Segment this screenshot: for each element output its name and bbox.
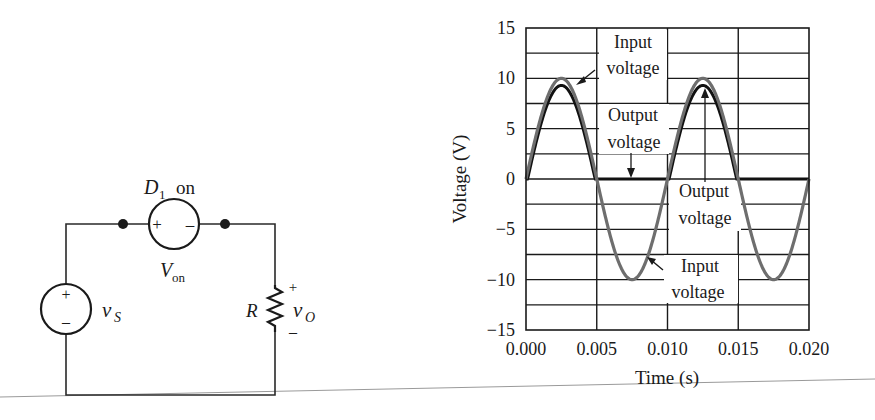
diode-plus-sign: +: [152, 215, 162, 234]
figure: + – D 1 on V on + – v S R + v O –: [0, 0, 875, 420]
x-tick-label: 0.020: [789, 339, 830, 359]
y-tick-label: −5: [496, 219, 515, 239]
source-label-subscript: S: [114, 310, 121, 325]
annotation-line1: Output: [679, 181, 729, 201]
x-tick-label: 0.015: [718, 339, 759, 359]
node-dot-right: [220, 219, 230, 229]
annotation-line2: voltage: [672, 282, 725, 302]
y-axis-label: Voltage (V): [449, 135, 471, 224]
diode-label: D 1 on: [143, 176, 196, 202]
annotation-line1: Input: [614, 32, 652, 52]
output-label: v O: [293, 298, 315, 325]
annotation-output-voltage-zero: Output voltage: [608, 105, 661, 178]
output-label-subscript: O: [305, 310, 315, 325]
output-plus-sign: +: [289, 279, 297, 295]
annotation-input-voltage-top: Input voltage: [576, 32, 659, 85]
y-tick-label: 0: [506, 169, 515, 189]
wire-bottom: [66, 332, 275, 395]
output-label-main: v: [293, 298, 303, 322]
x-axis-label: Time (s): [635, 367, 699, 389]
y-tick-label: 5: [506, 119, 515, 139]
source-plus-sign: +: [61, 286, 70, 303]
y-axis-ticks: 151050−5−10−15: [487, 18, 515, 340]
source-minus-sign: –: [61, 313, 71, 330]
y-tick-label: −15: [487, 320, 515, 340]
diode-state-label: on: [176, 177, 196, 198]
y-tick-label: −10: [487, 270, 515, 290]
arrow-head-icon: [627, 168, 635, 178]
annotation-line2: voltage: [607, 58, 660, 78]
x-axis-ticks: 0.0000.0050.0100.0150.020: [506, 339, 830, 359]
diode-minus-sign: –: [185, 215, 195, 234]
x-tick-label: 0.000: [506, 339, 547, 359]
arrow-head-icon: [576, 76, 586, 85]
source-label: v S: [102, 298, 121, 325]
y-tick-label: 10: [497, 68, 515, 88]
output-minus-sign: –: [288, 323, 298, 340]
annotation-line1: Output: [608, 105, 658, 125]
annotation-line2: voltage: [679, 208, 732, 228]
x-tick-label: 0.005: [577, 339, 618, 359]
wire-right-top: [199, 224, 275, 285]
source-label-main: v: [102, 298, 112, 322]
node-dot-left: [118, 219, 128, 229]
resistor-label: R: [245, 300, 258, 321]
x-tick-label: 0.010: [647, 339, 688, 359]
voltage-time-chart: 151050−5−10−15 0.0000.0050.0100.0150.020…: [449, 18, 829, 389]
y-tick-label: 15: [497, 18, 515, 38]
wire-left-top: [66, 224, 149, 284]
circuit-diagram: + – D 1 on V on + – v S R + v O –: [41, 176, 315, 395]
diode-label-subscript: 1: [159, 187, 166, 202]
annotation-line2: voltage: [608, 132, 661, 152]
resistor-symbol: [268, 285, 282, 332]
von-label: V on: [160, 259, 186, 285]
annotation-line1: Input: [681, 256, 719, 276]
diode-label-main: D: [143, 176, 159, 198]
von-label-subscript: on: [172, 270, 186, 285]
